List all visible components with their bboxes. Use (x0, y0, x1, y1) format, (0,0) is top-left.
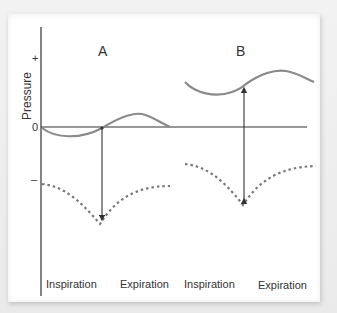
x-label-a-inspiration: Inspiration (46, 278, 97, 290)
panel-label-b: B (236, 43, 245, 59)
x-label-b-inspiration: Inspiration (184, 278, 235, 290)
pressure-diagram: + 0 – Pressure A B Inspiration Expiratio… (0, 0, 337, 313)
x-label-a-expiration: Expiration (120, 278, 169, 290)
tick-plus: + (32, 52, 38, 64)
y-axis-title: Pressure (20, 72, 34, 120)
curve-b-dotted (185, 164, 316, 205)
tick-zero: 0 (32, 121, 38, 133)
curve-a-dotted (42, 184, 170, 224)
curve-a-solid (42, 114, 170, 137)
x-label-b-expiration: Expiration (258, 279, 307, 291)
panel-label-a: A (98, 43, 108, 59)
curve-b-solid (185, 71, 314, 95)
tick-minus: – (31, 173, 38, 185)
